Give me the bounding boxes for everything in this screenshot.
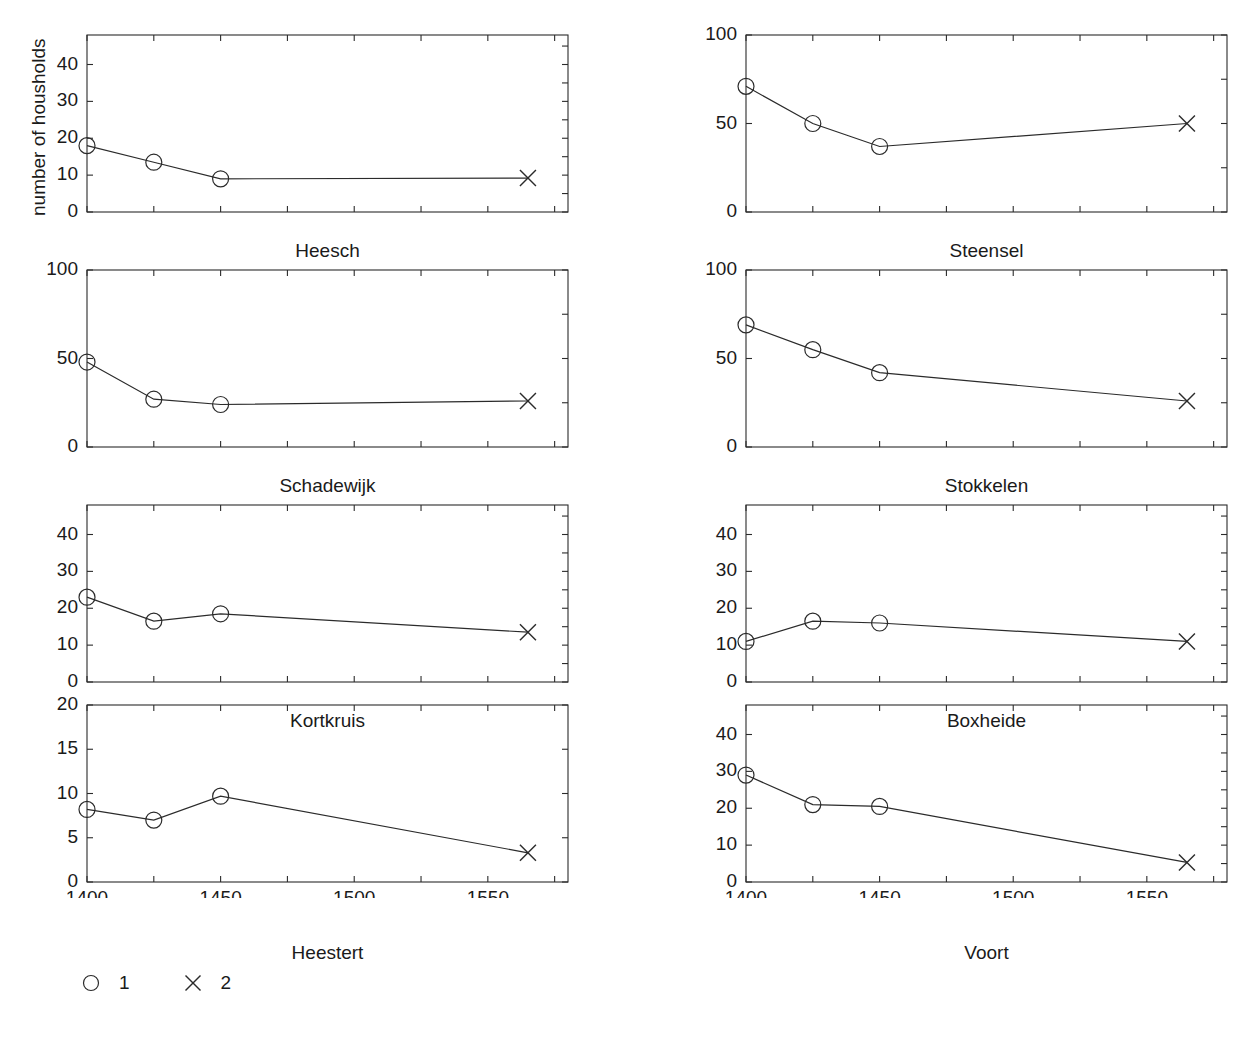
y-tick-label: 15 xyxy=(57,737,78,758)
plot-box xyxy=(87,705,568,882)
chart-panel-schadewijk: 050100 xyxy=(27,254,594,463)
plot-box xyxy=(746,270,1227,447)
y-tick-label: 30 xyxy=(57,559,78,580)
series-line xyxy=(87,146,528,179)
y-tick-label: 0 xyxy=(726,670,737,691)
y-tick-label: 100 xyxy=(705,23,737,44)
y-tick-label: 20 xyxy=(57,693,78,714)
x-tick-label: 1450 xyxy=(199,887,241,898)
chart-panel-boxheide: 010203040 xyxy=(686,489,1253,698)
y-tick-label: 100 xyxy=(705,258,737,279)
legend-entry-1: 1 xyxy=(80,972,130,994)
series-line xyxy=(87,796,528,853)
y-tick-label: 40 xyxy=(716,523,737,544)
panel-plot-area: 0102030401400145015001550 xyxy=(686,689,1253,898)
chart-panel-heestert: 051015201400145015001550 xyxy=(27,689,594,898)
x-tick-label: 1500 xyxy=(333,887,375,898)
y-tick-label: 50 xyxy=(716,112,737,133)
y-tick-label: 0 xyxy=(726,435,737,456)
y-tick-label: 20 xyxy=(57,596,78,617)
x-tick-label: 1550 xyxy=(467,887,509,898)
x-tick-label: 1400 xyxy=(725,887,767,898)
legend-entry-2: 2 xyxy=(182,972,232,994)
y-tick-label: 50 xyxy=(57,347,78,368)
multi-panel-line-chart: number of housholds 010203040Heesch05010… xyxy=(0,0,1258,1042)
y-tick-label: 10 xyxy=(716,633,737,654)
panel-plot-area: 050100 xyxy=(686,254,1253,463)
series-line xyxy=(746,621,1187,641)
y-tick-label: 10 xyxy=(57,633,78,654)
circle-marker-icon xyxy=(80,972,102,994)
y-tick-label: 100 xyxy=(46,258,78,279)
series-line xyxy=(746,775,1187,862)
y-tick-label: 0 xyxy=(726,200,737,221)
panel-title-heestert: Heestert xyxy=(87,942,568,964)
y-tick-label: 0 xyxy=(67,200,78,221)
y-tick-label: 30 xyxy=(716,759,737,780)
y-tick-label: 30 xyxy=(57,89,78,110)
y-tick-label: 10 xyxy=(57,782,78,803)
plot-box xyxy=(87,505,568,682)
x-tick-label: 1450 xyxy=(858,887,900,898)
panel-title-voort: Voort xyxy=(746,942,1227,964)
chart-panel-stokkelen: 050100 xyxy=(686,254,1253,463)
y-tick-label: 40 xyxy=(57,523,78,544)
y-tick-label: 10 xyxy=(57,163,78,184)
panel-plot-area: 010203040 xyxy=(686,489,1253,698)
chart-panel-steensel: 050100 xyxy=(686,19,1253,228)
y-tick-label: 0 xyxy=(67,435,78,456)
x-tick-label: 1550 xyxy=(1126,887,1168,898)
y-tick-label: 40 xyxy=(57,53,78,74)
panel-plot-area: 010203040 xyxy=(27,19,594,228)
series-line xyxy=(746,86,1187,146)
x-tick-label: 1400 xyxy=(66,887,108,898)
x-marker-icon xyxy=(182,972,204,994)
panel-plot-area: 051015201400145015001550 xyxy=(27,689,594,898)
series-line xyxy=(87,362,528,404)
y-tick-label: 20 xyxy=(716,796,737,817)
y-tick-label: 50 xyxy=(716,347,737,368)
legend-label-2: 2 xyxy=(221,972,232,994)
plot-box xyxy=(87,35,568,212)
chart-legend: 1 2 xyxy=(80,972,231,994)
y-tick-label: 20 xyxy=(57,126,78,147)
y-tick-label: 20 xyxy=(716,596,737,617)
chart-panel-kortkruis: 010203040 xyxy=(27,489,594,698)
y-tick-label: 40 xyxy=(716,723,737,744)
chart-panel-voort: 0102030401400145015001550 xyxy=(686,689,1253,898)
series-line xyxy=(87,597,528,632)
panel-plot-area: 050100 xyxy=(27,254,594,463)
legend-label-1: 1 xyxy=(119,972,130,994)
x-tick-label: 1500 xyxy=(992,887,1034,898)
plot-box xyxy=(746,35,1227,212)
y-tick-label: 30 xyxy=(716,559,737,580)
plot-box xyxy=(746,705,1227,882)
series-line xyxy=(746,325,1187,401)
chart-panel-heesch: 010203040 xyxy=(27,19,594,228)
panel-plot-area: 010203040 xyxy=(27,489,594,698)
plot-box xyxy=(746,505,1227,682)
y-tick-label: 5 xyxy=(67,826,78,847)
plot-box xyxy=(87,270,568,447)
y-tick-label: 10 xyxy=(716,833,737,854)
y-tick-label: 0 xyxy=(67,670,78,691)
panel-plot-area: 050100 xyxy=(686,19,1253,228)
